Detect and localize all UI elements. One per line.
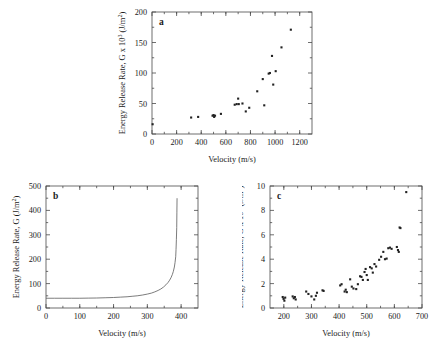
y-tick-label: 50 xyxy=(139,100,147,109)
panel-letter-c: c xyxy=(277,191,281,201)
plot-frame xyxy=(46,186,198,308)
data-point xyxy=(214,115,216,117)
x-tick-label: 300 xyxy=(141,312,153,321)
data-point xyxy=(391,248,393,250)
data-point xyxy=(262,78,264,80)
data-point xyxy=(190,116,192,118)
x-tick-label: 800 xyxy=(244,138,256,147)
y-tick-label: 100 xyxy=(29,280,41,289)
plot-a: 020040060080010001200050100150200aVeloci… xyxy=(112,4,344,172)
data-point xyxy=(380,256,382,258)
svg-text:Energy Release Rate, G (J/m2): Energy Release Rate, G (J/m2) xyxy=(11,195,21,298)
data-point xyxy=(241,102,243,104)
data-series-points xyxy=(282,191,408,302)
data-point xyxy=(283,300,285,302)
x-tick-label: 600 xyxy=(220,138,232,147)
y-tick-label: 0 xyxy=(261,304,265,313)
x-tick-label: 600 xyxy=(388,312,400,321)
data-point xyxy=(284,297,286,299)
y-tick-label: 200 xyxy=(29,255,41,264)
y-axis-title: Energy Release Rate, G x 103 (J/m2) xyxy=(242,186,245,309)
data-point xyxy=(346,291,348,293)
data-point xyxy=(367,279,369,281)
x-tick-label: 300 xyxy=(305,312,317,321)
data-point xyxy=(341,283,343,285)
data-point xyxy=(315,295,317,297)
panel-b-energy-release-vs-velocity: 01002003004000100200300400500bVelocity (… xyxy=(2,178,230,350)
y-axis-title: Energy Release Rate, G (J/m2) xyxy=(11,195,21,298)
svg-text:Energy Release Rate, G x 103 (: Energy Release Rate, G x 103 (J/m2) xyxy=(117,12,127,135)
plot-frame xyxy=(152,12,312,134)
x-tick-label: 200 xyxy=(278,312,290,321)
x-tick-label: 100 xyxy=(74,312,86,321)
data-point xyxy=(373,263,375,265)
data-point xyxy=(375,265,377,267)
data-point xyxy=(305,290,307,292)
data-point xyxy=(238,103,240,105)
data-point xyxy=(378,259,380,261)
x-tick-label: 400 xyxy=(175,312,187,321)
data-point xyxy=(290,29,292,31)
x-tick-label: 1200 xyxy=(292,138,308,147)
data-point xyxy=(234,104,236,106)
data-point xyxy=(248,107,250,109)
y-tick-label: 0 xyxy=(37,304,41,313)
data-point xyxy=(405,191,407,193)
data-series-curve xyxy=(46,198,177,298)
data-point xyxy=(236,103,238,105)
data-point xyxy=(269,72,271,74)
data-point xyxy=(362,279,364,281)
y-tick-label: 10 xyxy=(257,182,265,191)
data-point xyxy=(245,110,247,112)
data-point xyxy=(363,271,365,273)
data-point xyxy=(256,90,258,92)
data-point xyxy=(365,268,367,270)
y-tick-label: 6 xyxy=(261,231,265,240)
data-point xyxy=(271,55,273,57)
data-point xyxy=(399,227,401,229)
data-point xyxy=(295,298,297,300)
plot-b: 01002003004000100200300400500bVelocity (… xyxy=(2,178,230,350)
data-point xyxy=(282,296,284,298)
data-point xyxy=(275,70,277,72)
data-series-points xyxy=(152,29,292,126)
x-tick-label: 500 xyxy=(361,312,373,321)
data-point xyxy=(357,283,359,285)
x-tick-label: 0 xyxy=(44,312,48,321)
data-point xyxy=(355,288,357,290)
panel-a-energy-release-vs-velocity: 020040060080010001200050100150200aVeloci… xyxy=(112,4,344,172)
data-point xyxy=(237,98,239,100)
x-tick-label: 200 xyxy=(170,138,182,147)
data-point xyxy=(272,84,274,86)
data-point xyxy=(396,246,398,248)
panel-letter-b: b xyxy=(53,191,58,201)
x-tick-label: 700 xyxy=(416,312,428,321)
x-tick-label: 1000 xyxy=(267,138,283,147)
data-point xyxy=(197,116,199,118)
x-tick-label: 0 xyxy=(150,138,154,147)
data-point xyxy=(397,249,399,251)
data-point xyxy=(386,258,388,260)
data-point xyxy=(366,274,368,276)
data-point xyxy=(344,290,346,292)
y-tick-label: 8 xyxy=(261,206,265,215)
data-point xyxy=(280,46,282,48)
data-point xyxy=(398,251,400,253)
data-point xyxy=(351,286,353,288)
data-point xyxy=(313,298,315,300)
y-tick-label: 0 xyxy=(143,130,147,139)
data-point xyxy=(307,293,309,295)
x-axis-title: Velocity (m/s) xyxy=(208,155,256,164)
y-axis-title: Energy Release Rate, G x 103 (J/m2) xyxy=(117,12,127,135)
y-tick-label: 500 xyxy=(29,182,41,191)
data-point xyxy=(360,276,362,278)
data-point xyxy=(310,295,312,297)
data-point xyxy=(352,287,354,289)
y-tick-label: 400 xyxy=(29,206,41,215)
y-tick-label: 2 xyxy=(261,280,265,289)
svg-text:Energy Release Rate, G x 103 (: Energy Release Rate, G x 103 (J/m2) xyxy=(242,186,245,309)
data-point xyxy=(294,296,296,298)
data-point xyxy=(316,292,318,294)
y-tick-label: 300 xyxy=(29,231,41,240)
data-point xyxy=(372,272,374,274)
